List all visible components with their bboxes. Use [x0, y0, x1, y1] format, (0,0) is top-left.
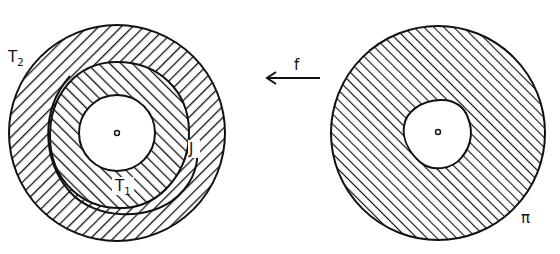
left-annulus-figure: T2 T1 J [7, 25, 225, 241]
center-point [436, 130, 441, 135]
label-t2: T2 [7, 48, 24, 68]
label-pi: π [521, 209, 530, 227]
map-arrow-f: f [267, 56, 320, 84]
center-point [115, 131, 120, 136]
diagram-canvas: T2 T1 J f π [0, 0, 560, 254]
label-j: J [188, 140, 193, 158]
right-annulus-figure: π [331, 26, 545, 240]
label-f: f [294, 56, 300, 74]
